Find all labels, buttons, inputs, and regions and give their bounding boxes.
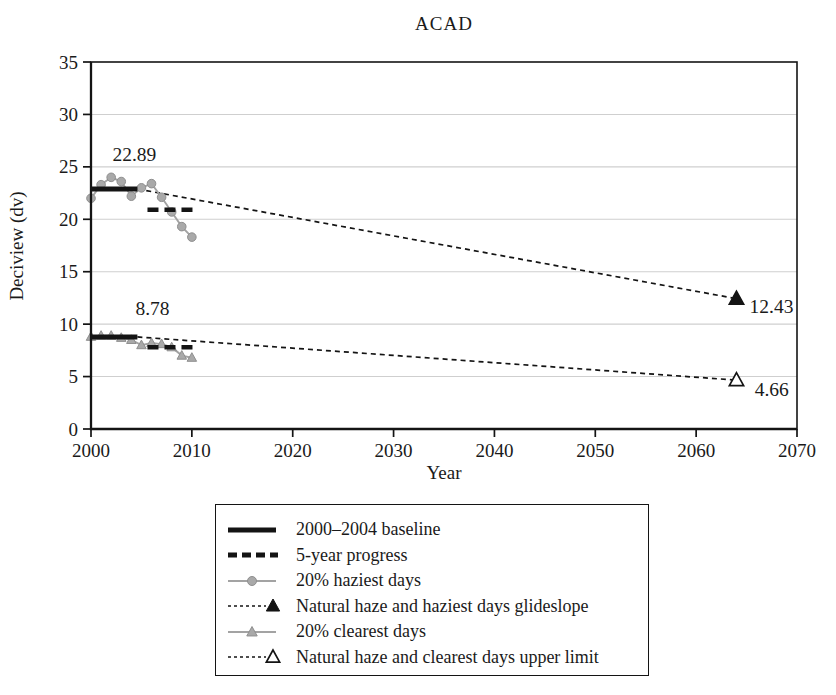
legend-item-label: 20% clearest days bbox=[296, 621, 426, 642]
chart-legend: 2000–2004 baseline5-year progress20% haz… bbox=[215, 504, 649, 676]
svg-text:10: 10 bbox=[59, 314, 78, 335]
gridlines bbox=[91, 114, 797, 376]
clearest-upper-limit-swatch-icon bbox=[226, 648, 282, 666]
svg-text:2050: 2050 bbox=[576, 440, 614, 461]
haziest-days-swatch-icon bbox=[226, 572, 282, 590]
legend-item-6: Natural haze and clearest days upper lim… bbox=[226, 645, 640, 671]
legend-item-label: 20% haziest days bbox=[296, 570, 421, 591]
glideslope-lines bbox=[137, 189, 736, 380]
baseline-swatch-icon bbox=[226, 521, 282, 539]
clearest-days-swatch-icon bbox=[226, 623, 282, 641]
svg-text:30: 30 bbox=[59, 104, 78, 125]
progress-segments bbox=[147, 210, 193, 347]
legend-item-label: Natural haze and haziest days glideslope bbox=[296, 596, 588, 617]
legend-item-label: 2000–2004 baseline bbox=[296, 519, 440, 540]
acad-haze-glideslope-figure: ACAD Deciview (dv) Year 2000201020202030… bbox=[0, 0, 836, 695]
svg-text:15: 15 bbox=[59, 261, 78, 282]
svg-text:12.43: 12.43 bbox=[750, 296, 794, 317]
svg-text:2020: 2020 bbox=[274, 440, 312, 461]
axes bbox=[91, 62, 797, 429]
svg-text:2070: 2070 bbox=[778, 440, 816, 461]
svg-text:2060: 2060 bbox=[677, 440, 715, 461]
progress-swatch-icon bbox=[226, 546, 282, 564]
svg-text:8.78: 8.78 bbox=[135, 298, 169, 319]
legend-item-label: Natural haze and clearest days upper lim… bbox=[296, 647, 599, 668]
legend-item-3: 20% haziest days bbox=[226, 568, 640, 594]
svg-text:22.89: 22.89 bbox=[112, 144, 156, 165]
chart-plot-area: 2000201020202030204020502060207005101520… bbox=[0, 0, 836, 500]
svg-text:2040: 2040 bbox=[475, 440, 513, 461]
svg-text:2030: 2030 bbox=[375, 440, 413, 461]
haziest-days-series bbox=[87, 173, 196, 241]
legend-item-label: 5-year progress bbox=[296, 545, 407, 566]
svg-text:2000: 2000 bbox=[72, 440, 110, 461]
tick-labels: 2000201020202030204020502060207005101520… bbox=[59, 52, 816, 462]
svg-text:0: 0 bbox=[69, 419, 79, 440]
svg-text:35: 35 bbox=[59, 52, 78, 73]
svg-text:4.66: 4.66 bbox=[755, 379, 789, 400]
baseline-segments bbox=[91, 189, 137, 337]
glideslope-end-markers bbox=[729, 291, 743, 385]
legend-item-1: 2000–2004 baseline bbox=[226, 517, 640, 543]
svg-text:5: 5 bbox=[69, 366, 79, 387]
legend-item-2: 5-year progress bbox=[226, 543, 640, 569]
svg-text:25: 25 bbox=[59, 156, 78, 177]
haziest-glideslope-swatch-icon bbox=[226, 597, 282, 615]
svg-text:2010: 2010 bbox=[173, 440, 211, 461]
legend-item-5: 20% clearest days bbox=[226, 619, 640, 645]
svg-text:20: 20 bbox=[59, 209, 78, 230]
legend-item-4: Natural haze and haziest days glideslope bbox=[226, 594, 640, 620]
